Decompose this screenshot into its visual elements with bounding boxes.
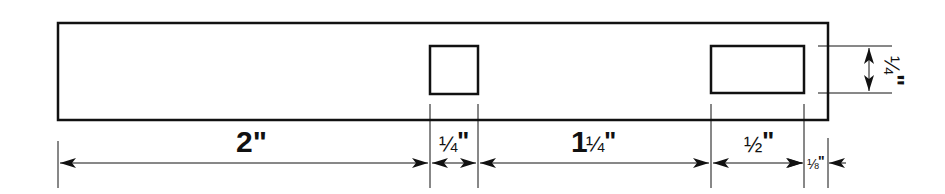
label-height: ¼ " — [879, 56, 910, 86]
label-half-unit: " — [762, 126, 774, 156]
label-one-quarter-unit: " — [604, 126, 616, 156]
label-quarter-in-unit: " — [457, 126, 469, 156]
label-half-frac: ½ — [744, 132, 762, 157]
svg-text:": " — [880, 74, 910, 86]
technical-drawing: 2" ¼ " 1 ¼ " ½ " ⅛ " ¼ " — [0, 0, 945, 194]
square-hole — [430, 46, 478, 94]
rect-hole — [711, 46, 804, 93]
label-quarter-in-frac: ¼ — [439, 132, 458, 157]
label-one-quarter-frac: ¼ — [586, 132, 605, 157]
label-2in: 2" — [236, 125, 267, 158]
svg-text:¼: ¼ — [879, 56, 904, 75]
label-eighth-unit: " — [818, 153, 825, 169]
extension-lines — [58, 46, 892, 188]
bar-outline — [58, 23, 828, 120]
